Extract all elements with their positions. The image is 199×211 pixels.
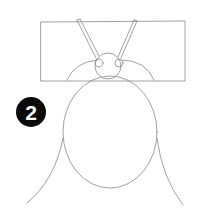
side-line-left — [27, 138, 63, 203]
head-circle — [95, 53, 121, 79]
guide-rectangle — [41, 21, 185, 81]
shoulder-arc — [67, 60, 154, 80]
antenna-right — [118, 20, 137, 58]
side-line-right — [157, 138, 183, 205]
antenna-left — [77, 19, 99, 58]
body-ellipse — [63, 76, 157, 188]
step-number-badge: 2 — [16, 97, 46, 127]
